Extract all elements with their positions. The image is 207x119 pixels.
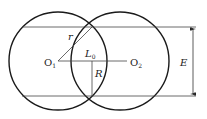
label-o2: O2 (130, 57, 142, 69)
label-l0: L0 (84, 48, 96, 60)
label-E: E (179, 57, 188, 68)
diagram-canvas: r O1 O2 L0 R E (0, 0, 207, 119)
label-R: R (94, 68, 103, 79)
label-r: r (68, 31, 74, 42)
label-o1: O1 (44, 57, 56, 69)
